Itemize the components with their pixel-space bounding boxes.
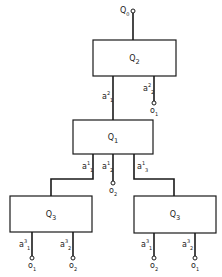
terminal-q2-out: o1 bbox=[150, 107, 158, 115]
box-q2: Q2 bbox=[93, 54, 176, 66]
root-label: Q0 bbox=[120, 7, 129, 15]
edge-label-q3r-a1: a31 bbox=[141, 241, 152, 249]
edge-label-q1-a3: a13 bbox=[137, 163, 148, 171]
edge-label-q1-a2: a12 bbox=[102, 163, 113, 171]
edge-label-q3l-a1: a31 bbox=[19, 241, 30, 249]
terminal-q3r-out1: o2 bbox=[150, 262, 158, 270]
edge-label-q1-a1: a11 bbox=[82, 163, 93, 171]
edge-label-q3r-a2: a32 bbox=[182, 241, 193, 249]
edge-label-q2-a1: a21 bbox=[102, 93, 113, 101]
box-q3-left: Q3 bbox=[10, 210, 92, 222]
box-q1: Q1 bbox=[73, 133, 153, 145]
edge-label-q3l-a2: a32 bbox=[60, 241, 71, 249]
terminal-q1-out: o2 bbox=[109, 187, 117, 195]
edge-label-q2-a2: a22 bbox=[143, 85, 154, 93]
terminal-q3r-out2: o1 bbox=[191, 262, 199, 270]
terminal-q3l-out1: o1 bbox=[28, 262, 36, 270]
box-q3-right: Q3 bbox=[134, 210, 216, 222]
terminal-q3l-out2: o2 bbox=[69, 262, 77, 270]
